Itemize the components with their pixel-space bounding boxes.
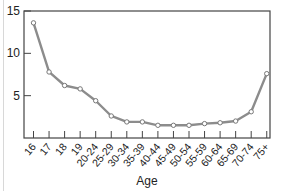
data-point-marker (233, 119, 237, 123)
y-tick-label: 10 (7, 46, 21, 60)
plot-frame (24, 11, 270, 138)
x-axis-title: Age (136, 174, 158, 188)
y-tick-label: 5 (13, 89, 20, 103)
x-tick-label: 75+ (251, 141, 272, 162)
y-tick-label: 15 (7, 4, 21, 18)
data-point-marker (47, 70, 51, 74)
data-point-marker (78, 87, 82, 91)
data-point-marker (31, 21, 35, 25)
data-point-marker (156, 123, 160, 127)
series-line (34, 23, 267, 125)
data-point-marker (202, 121, 206, 125)
data-point-marker (171, 123, 175, 127)
line-chart: 51015 1617181920-2425-2930-3435-3940-444… (0, 0, 282, 191)
data-point-marker (187, 123, 191, 127)
data-point-marker (218, 121, 222, 125)
data-point-marker (140, 120, 144, 124)
plot-border (24, 11, 270, 138)
x-tick-label: 18 (52, 140, 69, 157)
data-point-marker (265, 71, 269, 75)
data-point-marker (125, 120, 129, 124)
data-series (31, 21, 269, 128)
x-axis: 1617181920-2425-2930-3435-3940-4445-4950… (21, 131, 271, 169)
x-tick-label: 17 (37, 140, 54, 157)
data-point-marker (94, 99, 98, 103)
data-point-marker (109, 114, 113, 118)
data-point-marker (249, 110, 253, 114)
data-point-marker (62, 83, 66, 87)
y-axis: 51015 (7, 4, 31, 103)
x-tick-label: 16 (21, 140, 38, 157)
